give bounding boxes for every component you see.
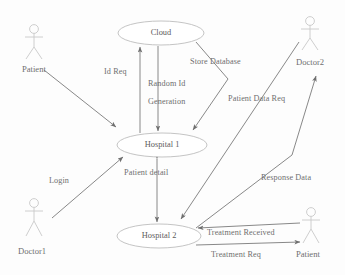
edge-doctor2-to-hospital2-patient-data-req <box>181 42 299 219</box>
edge-label-random-id: Random Id <box>148 80 186 89</box>
actor-doctor2-figure <box>301 17 319 50</box>
edge-label-login: Login <box>49 177 69 186</box>
actor-label-doctor1: Doctor1 <box>18 246 46 256</box>
actor-label-patient-left: Patient <box>22 64 46 74</box>
actor-label-patient-right: Patient <box>296 249 320 259</box>
node-label-cloud: Cloud <box>121 28 201 37</box>
actor-patient-right-figure <box>302 208 320 243</box>
edge-label-treatment-req: Treatment Req <box>211 251 261 260</box>
edge-label-patient-data-req: Patient Data Req <box>228 95 285 104</box>
edge-label-response-data: Response Data <box>261 174 311 183</box>
edge-label-patient-detail: Patient detail <box>124 169 168 178</box>
edge-doctor1-to-hospital1-login <box>52 157 123 218</box>
actor-label-doctor2: Doctor2 <box>296 57 324 67</box>
edge-patient-to-hospital1 <box>44 70 116 127</box>
edge-label-id-req: Id Req <box>104 68 127 77</box>
edge-label-treatment-received: Treatment Received <box>207 229 275 238</box>
actor-doctor1-figure <box>25 199 43 236</box>
use-case-diagram: Cloud Hospital 1 Hospital 2 Patient Doct… <box>0 0 345 275</box>
edge-label-generation: Generation <box>148 98 185 107</box>
edge-hospital2-to-patient-treatment-req <box>196 242 300 245</box>
node-label-hospital-1: Hospital 1 <box>122 140 202 149</box>
actor-patient-left-figure <box>25 25 43 59</box>
node-label-hospital-2: Hospital 2 <box>119 231 199 240</box>
edge-cloud-to-hospital1-store-database <box>193 42 228 130</box>
edge-label-store-database: Store Database <box>190 58 241 67</box>
